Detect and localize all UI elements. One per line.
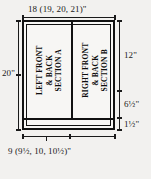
bottom-dimension-tick-right (114, 134, 116, 139)
bottom-band (26, 121, 111, 127)
top-dimension-line (22, 17, 115, 18)
panel-section-b: RIGHT FRONT & BACK SECTION B (74, 22, 117, 118)
panel-a-line-3: SECTION A (53, 45, 63, 95)
schematic-box: LEFT FRONT & BACK SECTION A RIGHT FRONT … (22, 20, 115, 130)
panel-section-a-label: LEFT FRONT & BACK SECTION A (34, 45, 63, 95)
left-dimension-tick-bottom (16, 129, 21, 131)
left-dimension-tick-top (16, 20, 21, 22)
top-width-label: 18 (19, 20, 21)" (28, 4, 87, 14)
center-divider-line (71, 22, 73, 120)
panel-a-line-2: & BACK (44, 45, 54, 95)
schematic-diagram: 18 (19, 20, 21)" 20" LEFT FRONT & BACK S… (0, 0, 151, 179)
panel-b-line-1: RIGHT FRONT (81, 42, 91, 97)
right-lower-label: 1½" (124, 119, 139, 129)
bottom-dimension-tick-left (22, 134, 24, 139)
right-upper-label: 12" (124, 50, 137, 60)
left-height-label: 20" (2, 68, 15, 78)
left-dimension-tick-middle (16, 74, 21, 76)
bottom-dimension-tick-center (69, 134, 71, 139)
right-dimension-tick-lower (117, 117, 122, 119)
right-dimension-line (119, 20, 120, 130)
right-dimension-tick-upper (117, 90, 122, 92)
panel-section-b-label: RIGHT FRONT & BACK SECTION B (81, 42, 110, 97)
bottom-dimension-leader (46, 136, 47, 141)
panel-b-line-3: SECTION B (100, 42, 110, 97)
bottom-divider-line (24, 118, 113, 120)
panel-b-line-2: & BACK (91, 42, 101, 97)
right-dimension-tick-top (117, 20, 122, 22)
bottom-width-label: 9 (9½, 10, 10½)" (8, 146, 71, 156)
panel-a-line-1: LEFT FRONT (34, 45, 44, 95)
right-dimension-tick-bottom (117, 129, 122, 131)
right-middle-label: 6½" (124, 99, 139, 109)
panel-section-a: LEFT FRONT & BACK SECTION A (26, 22, 71, 118)
